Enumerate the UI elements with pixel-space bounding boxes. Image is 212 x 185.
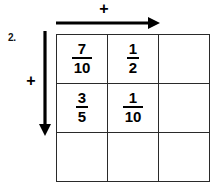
fraction-numerator: 3 — [76, 90, 88, 106]
table-row — [57, 133, 210, 182]
grid-cell-r0c2[interactable] — [159, 35, 210, 84]
grid-cell-r2c1[interactable] — [108, 133, 159, 182]
fraction-numerator: 7 — [72, 41, 93, 57]
fraction-denominator: 10 — [123, 106, 144, 124]
fraction-denominator: 5 — [76, 106, 88, 124]
grid-cell-r2c0[interactable] — [57, 133, 108, 182]
fraction-denominator: 10 — [72, 57, 93, 75]
fraction-grid: 7 10 1 2 3 5 1 10 — [56, 34, 206, 178]
grid-cell-r1c2[interactable] — [159, 84, 210, 133]
table-row: 7 10 1 2 — [57, 35, 210, 84]
grid-cell-r0c0[interactable]: 7 10 — [57, 35, 108, 84]
grid-cell-r2c2[interactable] — [159, 133, 210, 182]
grid-table: 7 10 1 2 3 5 1 10 — [56, 34, 210, 182]
table-row: 3 5 1 10 — [57, 84, 210, 133]
arrow-down-icon — [37, 31, 53, 136]
fraction-1-10: 1 10 — [123, 90, 144, 125]
problem-number: 2. — [8, 33, 16, 43]
fraction-numerator: 1 — [123, 90, 144, 106]
arrow-right-icon — [56, 15, 160, 31]
grid-cell-r0c1[interactable]: 1 2 — [108, 35, 159, 84]
fraction-3-5: 3 5 — [76, 90, 88, 125]
fraction-denominator: 2 — [127, 57, 139, 75]
fraction-1-2: 1 2 — [127, 41, 139, 76]
fraction-7-10: 7 10 — [72, 41, 93, 76]
grid-cell-r1c0[interactable]: 3 5 — [57, 84, 108, 133]
grid-cell-r1c1[interactable]: 1 10 — [108, 84, 159, 133]
fraction-numerator: 1 — [127, 41, 139, 57]
